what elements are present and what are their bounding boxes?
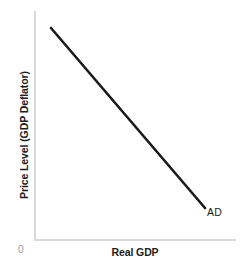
aggregate-demand-chart: Price Level (GDP Deflator) Real GDP 0 AD bbox=[0, 0, 245, 276]
plot-area bbox=[0, 0, 245, 276]
ad-curve-line bbox=[51, 28, 205, 208]
x-axis-label: Real GDP bbox=[34, 246, 236, 258]
ad-curve-label: AD bbox=[207, 206, 222, 218]
y-axis-label: Price Level (GDP Deflator) bbox=[18, 55, 30, 215]
origin-label: 0 bbox=[18, 244, 24, 255]
